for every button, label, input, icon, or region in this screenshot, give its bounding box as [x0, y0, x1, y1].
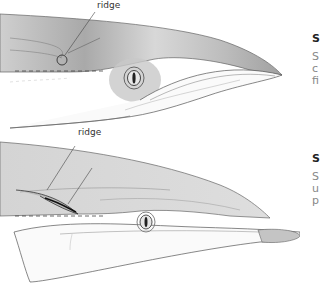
caption-bottom: S S u p: [312, 152, 320, 207]
ridge-label-top: ridge: [97, 0, 120, 10]
caption-top: S S c fi: [312, 32, 320, 87]
shark-head-bottom-drawing: [0, 140, 300, 285]
shark-head-illustration-top: ridge: [0, 0, 300, 140]
shark-head-top-drawing: [0, 0, 300, 140]
ridge-label-bottom: ridge: [78, 127, 101, 137]
eye-icon: [137, 212, 155, 232]
eye-icon: [124, 67, 144, 89]
caption-top-heading: S: [312, 32, 320, 45]
caption-top-line-3: fi: [312, 75, 320, 87]
shark-dorsal-shape: [0, 142, 270, 218]
caption-bottom-line-3: p: [312, 195, 320, 207]
shark-head-illustration-bottom: ridge: [0, 140, 300, 285]
caption-bottom-heading: S: [312, 152, 320, 165]
shark-jaw-shape: [14, 224, 300, 282]
